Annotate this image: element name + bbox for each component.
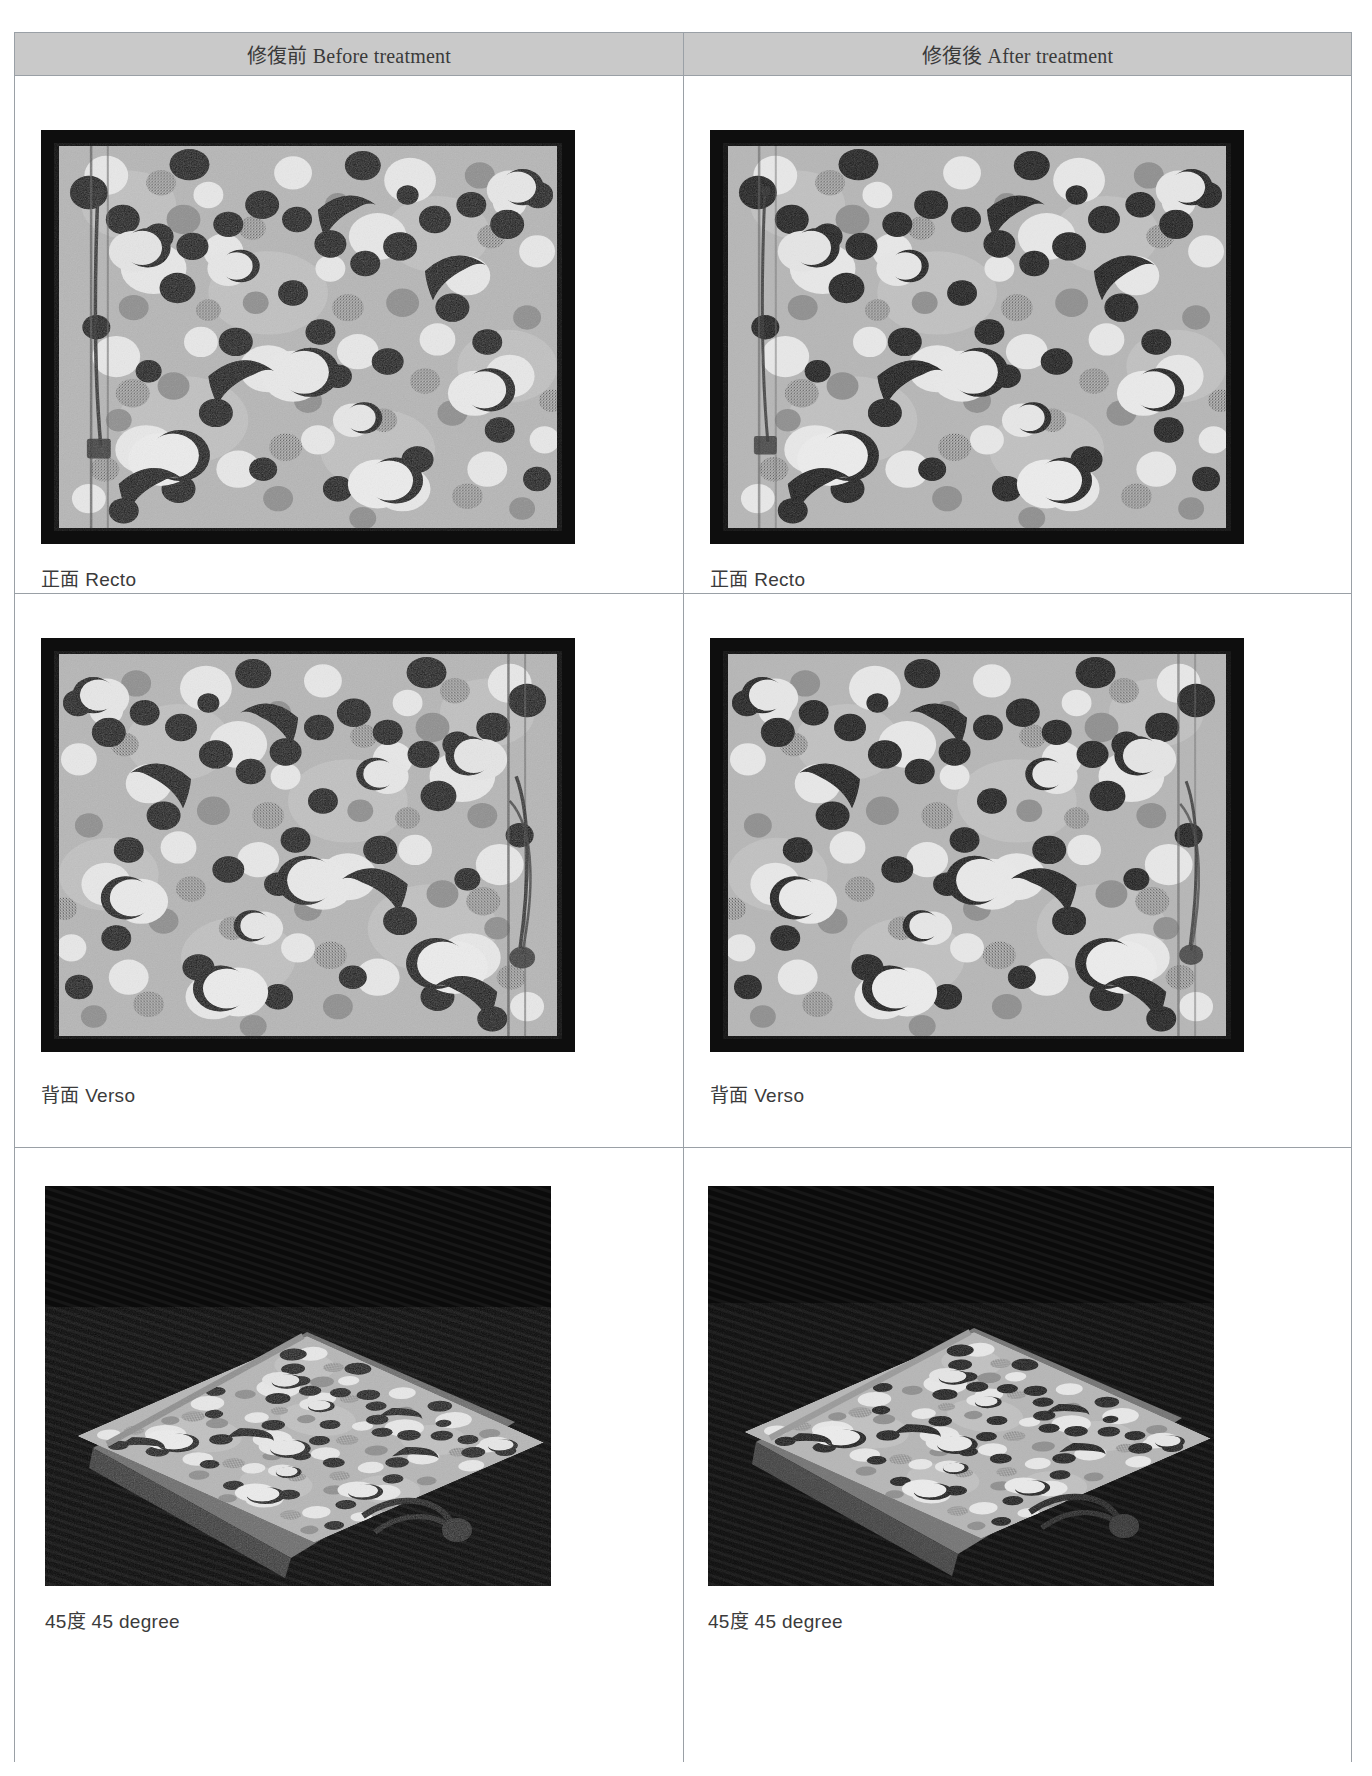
- cell-recto-after: 正面 Recto: [683, 76, 1351, 593]
- figure-caption: 正面 Recto: [710, 564, 805, 591]
- photo-angle-before: [45, 1186, 551, 1586]
- column-header-before-label: 修復前 Before treatment: [247, 40, 451, 69]
- column-header-after: 修復後 After treatment: [683, 33, 1351, 75]
- figure-angle-before: [45, 1186, 551, 1586]
- photo-verso-before: [41, 638, 575, 1052]
- table-row: 背面 Verso: [15, 594, 1351, 1148]
- cell-angle-before: 45度 45 degree: [15, 1148, 683, 1762]
- cell-angle-after: 45度 45 degree: [683, 1148, 1351, 1762]
- comparison-table: 修復前 Before treatment 修復後 After treatment: [14, 32, 1352, 1762]
- figure-recto-before: [41, 130, 575, 544]
- scan-top-text-fragment: [18, 0, 318, 10]
- figure-caption: 背面 Verso: [41, 1080, 135, 1107]
- figure-angle-after: [708, 1186, 1214, 1586]
- figure-caption: 45度 45 degree: [708, 1606, 843, 1633]
- table-row: 45度 45 degree: [15, 1148, 1351, 1762]
- figure-verso-after: [710, 638, 1244, 1052]
- table-row: 正面 Recto: [15, 76, 1351, 594]
- cell-verso-before: 背面 Verso: [15, 594, 683, 1147]
- figure-verso-before: [41, 638, 575, 1052]
- figure-caption: 正面 Recto: [41, 564, 136, 591]
- figure-recto-after: [710, 130, 1244, 544]
- figure-caption: 背面 Verso: [710, 1080, 804, 1107]
- photo-recto-after: [710, 130, 1244, 544]
- cell-verso-after: 背面 Verso: [683, 594, 1351, 1147]
- photo-verso-after: [710, 638, 1244, 1052]
- cell-recto-before: 正面 Recto: [15, 76, 683, 593]
- photo-recto-before: [41, 130, 575, 544]
- column-header-after-label: 修復後 After treatment: [922, 40, 1114, 69]
- photo-angle-after: [708, 1186, 1214, 1586]
- figure-caption: 45度 45 degree: [45, 1606, 180, 1633]
- table-header-row: 修復前 Before treatment 修復後 After treatment: [15, 33, 1351, 76]
- column-header-before: 修復前 Before treatment: [15, 33, 683, 75]
